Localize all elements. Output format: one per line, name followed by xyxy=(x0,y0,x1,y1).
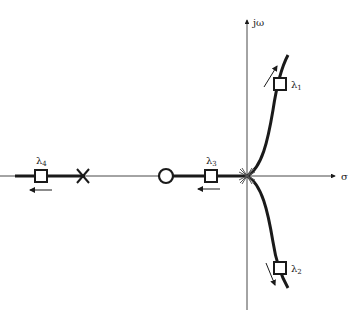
eigenvalue-marker-1 xyxy=(274,78,286,90)
eigenvalue-label-4: λ4 xyxy=(36,155,47,168)
eigenvalue-label-2: λ2 xyxy=(291,263,302,276)
eigenvalue-marker-4 xyxy=(35,170,47,182)
eigenvalue-marker-2 xyxy=(274,262,286,274)
imag-axis-label: jω xyxy=(252,17,264,28)
real-axis-label: σ xyxy=(341,171,348,182)
eigenvalue-label-3: λ3 xyxy=(206,155,217,168)
eigenvalue-marker-3 xyxy=(205,170,217,182)
zero-marker xyxy=(159,169,173,183)
eigenvalue-label-1: λ1 xyxy=(291,79,302,92)
locus-branch-1 xyxy=(247,55,288,176)
root-locus-diagram: jω σ λ4 λ3 λ1 λ2 xyxy=(0,0,357,322)
